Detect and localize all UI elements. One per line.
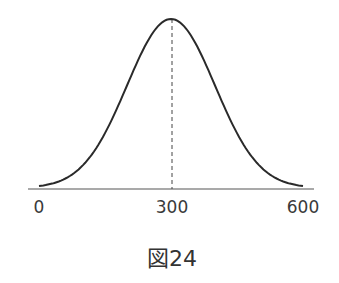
bell-curve	[39, 19, 303, 186]
x-tick-0: 0	[34, 197, 45, 217]
figure-caption: 図24	[147, 240, 197, 272]
x-tick-300: 300	[156, 197, 188, 217]
x-tick-600: 600	[287, 197, 319, 217]
